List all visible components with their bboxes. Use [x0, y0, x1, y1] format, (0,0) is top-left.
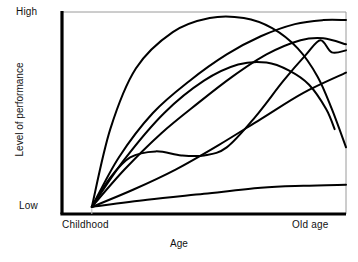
y-axis-tick-high: High: [16, 6, 37, 17]
chart-figure: High Low Childhood Old age Age Level of …: [0, 0, 358, 262]
curve-gradual-rise-to-high-plateau: [92, 20, 346, 207]
x-axis-tick-childhood: Childhood: [62, 219, 109, 230]
curve-steep-early-rise-then-decline: [92, 17, 346, 207]
x-axis-title: Age: [0, 238, 358, 249]
curve-series-group: [92, 17, 346, 207]
curve-near-flat-minimal-gain: [92, 185, 346, 207]
y-axis-tick-low: Low: [19, 200, 38, 211]
curve-plateau-dip-then-rise: [92, 40, 346, 207]
curve-late-accelerating-rise: [92, 38, 346, 207]
x-axis-tick-old-age: Old age: [292, 219, 328, 230]
y-axis-title: Level of performance: [14, 45, 25, 175]
